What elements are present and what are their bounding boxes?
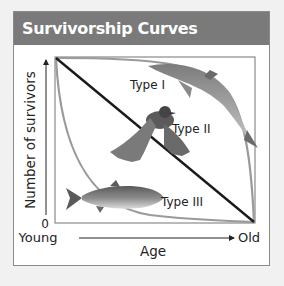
y-zero-label: 0 — [41, 217, 49, 231]
type-ii-label: Type II — [171, 122, 210, 136]
y-axis-label: Number of survivors — [22, 71, 38, 209]
x-old-label: Old — [238, 230, 260, 245]
type-iii-label: Type III — [160, 195, 203, 209]
type-i-label: Type I — [129, 78, 165, 92]
x-young-label: Young — [18, 230, 58, 245]
x-axis-label: Age — [140, 243, 166, 259]
survivorship-chart: Type I Type II Type III Number of surviv… — [0, 0, 284, 286]
